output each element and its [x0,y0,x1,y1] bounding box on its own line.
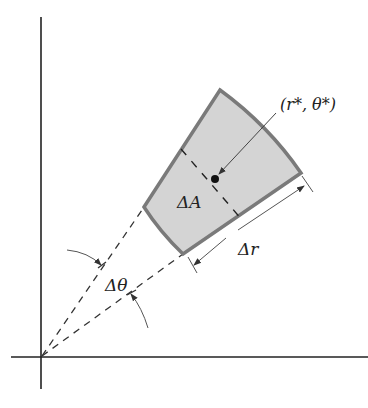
sample-point [211,175,219,183]
area-label: ΔA [176,192,202,212]
area-element-region [144,90,301,254]
delta-theta-label: Δθ [104,275,128,295]
point-label: (r*, θ*) [280,95,336,114]
diagram-canvas: (r*, θ*) ΔA Δr Δθ [0,0,368,408]
ray-lower [42,254,183,356]
ray-upper [42,207,144,356]
delta-r-label: Δr [237,239,259,259]
